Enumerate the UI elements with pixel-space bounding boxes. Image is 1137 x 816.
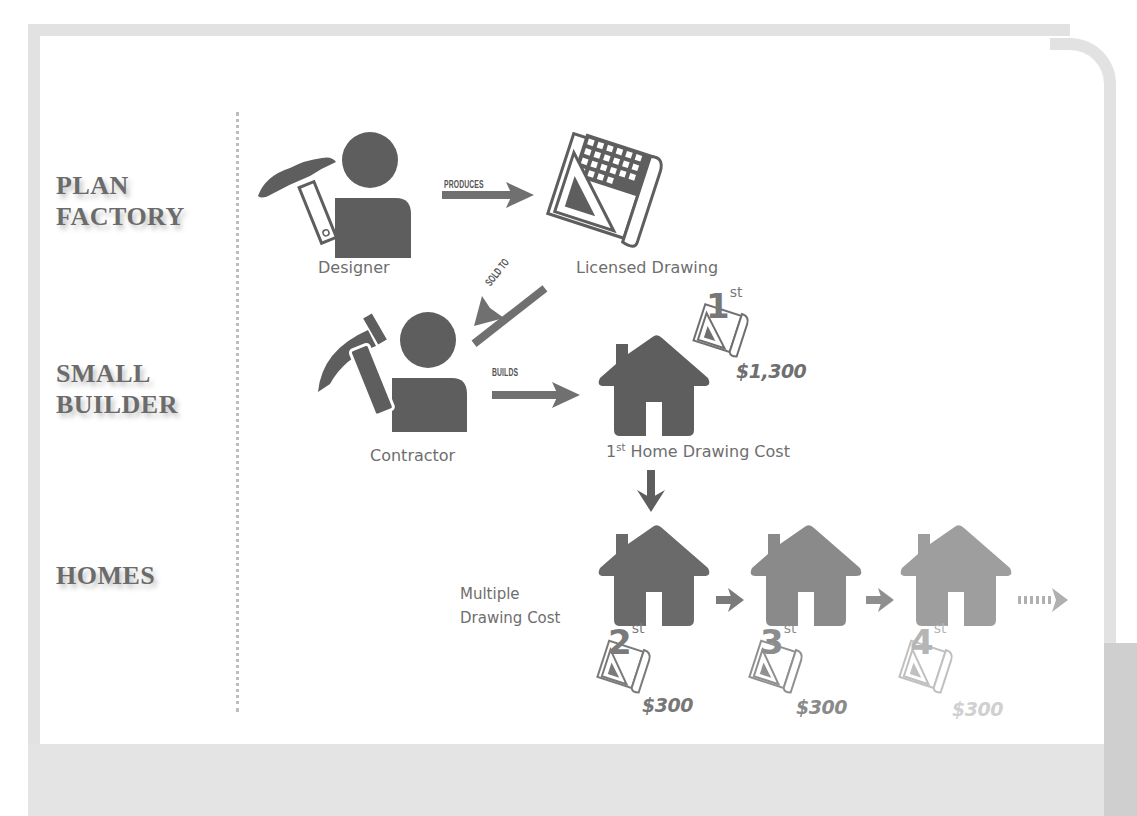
dotted-divider <box>236 112 239 712</box>
ordinal-suffix: st <box>632 620 645 636</box>
drawing-ordinal-3: 3st <box>760 622 796 662</box>
caption-line: Drawing Cost <box>460 606 561 630</box>
row-label-line: HOMES <box>56 560 155 591</box>
caption-line: Multiple <box>460 582 561 606</box>
price-4: $300 <box>952 698 1003 720</box>
builds-arrow-icon <box>492 382 582 412</box>
builds-label: BUILDS <box>492 366 518 378</box>
frame-top-border <box>28 24 1070 36</box>
first-home-caption: 1st Home Drawing Cost <box>606 442 790 461</box>
designer-person-icon <box>250 118 450 258</box>
ordinal-suffix: st <box>784 620 797 636</box>
row-label-small-builder: SMALL BUILDER <box>56 358 178 420</box>
row-label-line: SMALL <box>56 358 178 389</box>
continuation-dotted-arrow-icon <box>1018 588 1072 612</box>
ordinal-suffix: st <box>730 284 743 300</box>
ordinal-number: 3 <box>760 622 784 662</box>
caption-prefix: 1 <box>606 442 616 461</box>
row-label-line: PLAN <box>56 170 185 201</box>
drawing-ordinal-2: 2st <box>608 622 644 662</box>
house-3-icon <box>746 520 866 630</box>
row-label-line: BUILDER <box>56 389 178 420</box>
frame-left-border <box>28 24 40 756</box>
ordinal-number: 2 <box>608 622 632 662</box>
frame-right-border <box>1104 94 1116 654</box>
frame-right-block <box>1104 643 1137 816</box>
contractor-person-icon <box>310 300 500 430</box>
row-label-plan-factory: PLAN FACTORY <box>56 170 185 232</box>
caption-text: Home Drawing Cost <box>625 442 790 461</box>
designer-caption: Designer <box>318 258 390 277</box>
frame-bottom-band <box>28 744 1137 816</box>
row-label-homes: HOMES <box>56 560 155 591</box>
contractor-caption: Contractor <box>370 446 455 465</box>
price-2: $300 <box>642 694 693 716</box>
caption-sup: st <box>616 442 625 453</box>
ordinal-number: 4 <box>910 622 934 662</box>
licensed-drawing-caption: Licensed Drawing <box>576 258 718 277</box>
price-3: $300 <box>796 696 847 718</box>
produces-arrow-icon <box>442 182 538 212</box>
ordinal-number: 1 <box>706 286 730 326</box>
house-4-icon <box>896 520 1016 630</box>
house-2-icon <box>594 520 714 630</box>
next-arrow-icon <box>866 588 896 612</box>
licensed-drawing-icon <box>548 135 678 245</box>
multiple-drawing-caption: Multiple Drawing Cost <box>460 582 561 630</box>
price-1: $1,300 <box>736 360 806 382</box>
next-arrow-icon <box>716 588 746 612</box>
drawing-ordinal-4: 4st <box>910 622 946 662</box>
down-arrow-icon <box>636 470 666 514</box>
drawing-ordinal-1: 1st <box>706 286 742 326</box>
row-label-line: FACTORY <box>56 201 185 232</box>
ordinal-suffix: st <box>934 620 947 636</box>
